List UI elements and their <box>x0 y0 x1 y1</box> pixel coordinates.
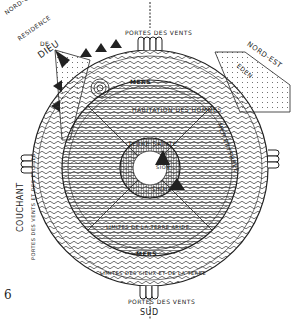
south-gate-label: PORTES DES VENTS <box>128 298 195 305</box>
sinai-label: SINAI <box>152 186 168 192</box>
west-gate-label: PORTES DES VENTS ET DES ETOILES <box>30 153 36 260</box>
limites-cieux-label: LIMITES DES CIEUX ET DE LA TERRE <box>100 270 206 276</box>
habitation-label: HABITATION DES HOMMES <box>132 106 222 113</box>
west-label: COUCHANT <box>16 182 25 232</box>
mers-top-label: MERS <box>130 78 151 85</box>
east-gate <box>268 150 279 168</box>
figure-number: 6 <box>4 288 12 302</box>
south-label: SUD <box>140 308 159 317</box>
north-gate-label: PORTES DES VENTS <box>125 29 192 36</box>
mers-bottom-label: MERS <box>136 250 157 257</box>
limites-terre-label: LIMITES DE LA TERRE ARIDE <box>106 224 189 230</box>
sion-label: SION <box>156 164 170 170</box>
north-gate <box>138 37 162 50</box>
terre-sainte-label: TERRE SAINTE <box>128 140 177 147</box>
